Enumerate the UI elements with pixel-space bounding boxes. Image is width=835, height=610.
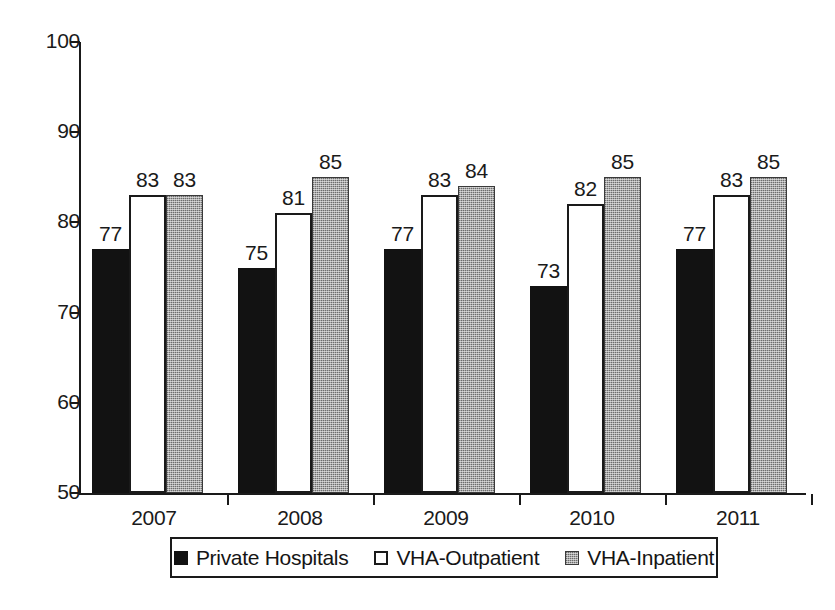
bar-value-label: 77 [373,223,433,244]
x-axis-label-2010: 2010 [532,505,652,531]
x-axis-tick-mark [811,494,813,505]
y-axis-tick: 50 [0,492,80,494]
bar-chart: 1009080706050 77838375818577838473828577… [0,0,835,610]
y-axis-tick-mark [70,221,80,223]
legend-swatch-icon [565,551,579,565]
legend-item-vha-outpatient: VHA-Outpatient [374,547,539,568]
y-axis-tick: 90 [0,131,80,133]
bar-value-label: 84 [447,160,507,181]
legend-item-private-hospitals: Private Hospitals [174,547,348,568]
bar-2011-vha-inpatient [750,177,787,493]
bar-2008-vha-inpatient [312,177,349,493]
y-axis-tick: 100 [0,41,80,43]
legend-item-vha-inpatient: VHA-Inpatient [565,547,714,568]
y-axis-tick-mark [70,492,80,494]
y-axis-tick: 70 [0,312,80,314]
bar-value-label: 81 [264,187,324,208]
bar-value-label: 83 [702,169,762,190]
x-axis-tick-mark [227,494,229,505]
y-axis-tick-mark [70,41,80,43]
legend-label: Private Hospitals [196,547,348,568]
bar-value-label: 73 [519,260,579,281]
y-axis-tick: 80 [0,221,80,223]
y-axis-tick-mark [70,131,80,133]
x-axis-label-2011: 2011 [678,505,798,531]
bar-value-label: 85 [301,151,361,172]
bar-value-label: 85 [593,151,653,172]
y-axis-line [79,42,81,494]
bar-2010-vha-inpatient [604,177,641,493]
x-axis-label-2009: 2009 [386,505,506,531]
y-axis-tick-mark [70,312,80,314]
legend-swatch-icon [174,551,188,565]
y-axis-tick-mark [70,402,80,404]
bar-2010-private-hospitals [530,286,567,493]
bar-2011-private-hospitals [676,249,713,493]
legend-label: VHA-Outpatient [396,547,539,568]
bar-2008-private-hospitals [238,268,275,494]
legend-swatch-icon [374,551,388,565]
bar-2009-vha-inpatient [458,186,495,493]
legend-label: VHA-Inpatient [587,547,714,568]
bar-value-label: 85 [739,151,799,172]
bar-2010-vha-outpatient [567,204,604,493]
bar-value-label: 77 [665,223,725,244]
bar-2007-private-hospitals [92,249,129,493]
x-axis-tick-mark [665,494,667,505]
x-axis-line [79,493,806,495]
x-axis-tick-mark [519,494,521,505]
x-axis-label-2007: 2007 [94,505,214,531]
bar-value-label: 75 [227,242,287,263]
bar-value-label: 82 [556,178,616,199]
x-axis-tick-mark [373,494,375,505]
bar-2007-vha-inpatient [166,195,203,493]
bar-value-label: 77 [81,223,141,244]
bar-2009-private-hospitals [384,249,421,493]
bar-value-label: 83 [155,169,215,190]
y-axis-tick: 60 [0,402,80,404]
x-axis-label-2008: 2008 [240,505,360,531]
chart-legend: Private HospitalsVHA-OutpatientVHA-Inpat… [170,537,718,578]
